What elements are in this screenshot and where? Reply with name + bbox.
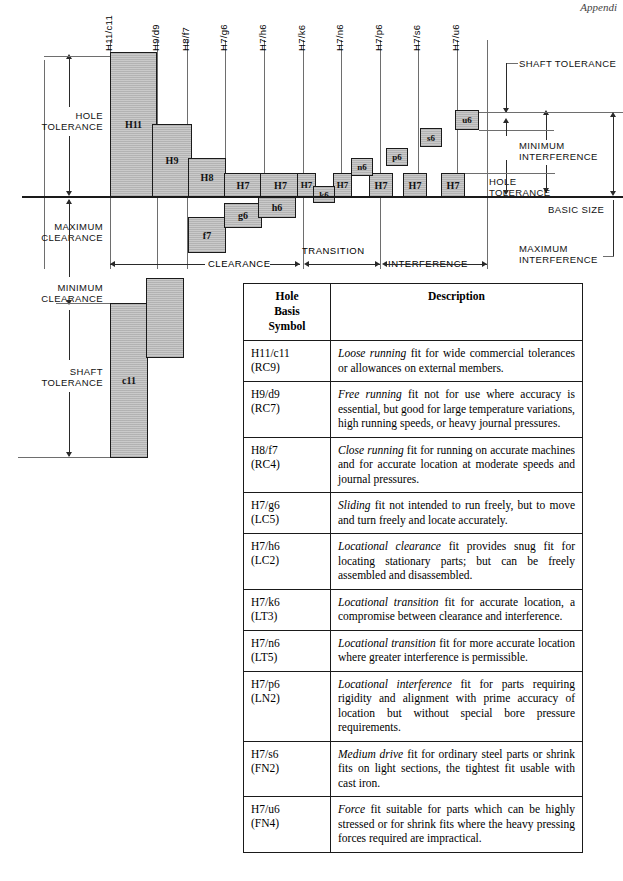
header-cell-symbol: Hole Basis Symbol (244, 284, 331, 341)
dim-stem-min-inter (546, 112, 547, 140)
dim-stem-min-clear-b (69, 310, 70, 360)
top-label-5: H7/k6 (296, 25, 307, 51)
column-guide-lower (303, 197, 304, 269)
hole-bar-h7-g6: H7 (224, 173, 262, 197)
cell-symbol: H7/p6 (LN2) (244, 671, 331, 741)
annotation-basic-size: BASIC SIZE (548, 204, 623, 215)
fit-term: Free running (338, 388, 402, 400)
fit-term: Medium drive (338, 748, 403, 760)
arrow-left-icon (304, 261, 309, 267)
leader-max-inter (603, 256, 614, 257)
annotation-hole-tolerance-right: HOLE TOLERANCE (489, 176, 559, 198)
fit-term: Locational transition (338, 637, 436, 649)
dim-stem-hole-tol-b (69, 136, 70, 193)
column-guide-lower (487, 197, 488, 269)
column-guide-lower (157, 197, 158, 269)
top-label-0: H11/c11 (103, 15, 114, 51)
fit-term: Locational interference (338, 678, 452, 690)
dim-stem-shaft-tol (69, 392, 70, 456)
shaft-bar-h6: h6 (258, 196, 296, 218)
top-label-2: H8/f7 (180, 27, 191, 51)
shaft-bar-d9: d9 (146, 278, 184, 358)
leader-shaft-tol-right-v (506, 63, 507, 113)
zone-dim-interference (384, 264, 487, 265)
arrow-left-icon (382, 261, 387, 267)
cell-description: Close running fit for running on accurat… (331, 437, 583, 493)
hole-bar-h7-p6: H7 (403, 173, 427, 197)
top-label-1: H9/d9 (150, 24, 161, 51)
fit-text: fit not intended to run freely, but to m… (338, 499, 575, 526)
hole-bar-h7-n6: H7 (369, 173, 393, 197)
cell-description: Locational transition fit for more accur… (331, 630, 583, 671)
top-label-8: H7/s6 (411, 25, 422, 51)
table-row: H7/p6 (LN2) Locational interference fit … (244, 671, 583, 741)
annotation-shaft-tolerance-right: SHAFT TOLERANCE (519, 58, 623, 69)
cell-symbol: H9/d9 (RC7) (244, 382, 331, 438)
arrow-down-icon (503, 190, 509, 195)
fit-term: Close running (338, 444, 404, 456)
hole-bar-h11: H11 (110, 52, 157, 197)
arrow-up-icon (66, 199, 72, 204)
ext-line-hole-right (465, 173, 555, 174)
zone-dim-clearance (110, 264, 205, 265)
dim-stem-hole-tol-right-b (506, 160, 507, 193)
cell-symbol: H7/g6 (LC5) (244, 493, 331, 534)
arrow-right-icon (295, 261, 300, 267)
hole-bar-h7-h6: H7 (260, 173, 301, 197)
cell-symbol: H7/u6 (FN4) (244, 797, 331, 853)
fit-text: fit suitable for parts which can be high… (338, 803, 575, 844)
top-label-9: H7/u6 (450, 24, 461, 51)
annotation-hole-tolerance-left: HOLE TOLERANCE (28, 110, 103, 132)
annotation-maximum-interference: MAXIMUM INTERFERENCE (519, 243, 619, 265)
cell-description: Medium drive fit for ordinary steel part… (331, 741, 583, 797)
top-label-6: H7/n6 (334, 24, 345, 51)
annotation-maximum-clearance: MAXIMUM CLEARANCE (0, 221, 103, 243)
leader-shaft-tol-right (506, 63, 518, 64)
cell-description: Force fit suitable for parts which can b… (331, 797, 583, 853)
cell-description: Sliding fit not intended to run freely, … (331, 493, 583, 534)
cell-symbol: H7/h6 (LC2) (244, 534, 331, 590)
shaft-bar-s6: s6 (420, 128, 442, 147)
dim-stem-max-inter-b (613, 200, 614, 256)
table-row: H7/n6 (LT5) Locational transition fit fo… (244, 630, 583, 671)
dim-stem-max-inter (613, 114, 614, 194)
annotation-minimum-interference: MINIMUM INTERFERENCE (519, 140, 619, 162)
hole-bar-h7-k6b: H7 (333, 173, 352, 197)
table-row: H7/u6 (FN4) Force fit suitable for parts… (244, 797, 583, 853)
cell-description: Locational clearance fit provides snug f… (331, 534, 583, 590)
arrow-down-icon (66, 452, 72, 457)
arrow-left-icon (110, 261, 115, 267)
ext-line-u6-top (479, 112, 623, 113)
table-row: H8/f7 (RC4) Close running fit for runnin… (244, 437, 583, 493)
fit-term: Locational clearance (338, 540, 441, 552)
cell-symbol: H7/s6 (FN2) (244, 741, 331, 797)
column-guide-lower (110, 197, 111, 269)
shaft-bar-k6: k6 (313, 186, 335, 203)
cell-symbol: H7/k6 (LT3) (244, 589, 331, 630)
shaft-bar-c11: c11 (110, 303, 148, 458)
top-label-7: H7/p6 (373, 24, 384, 51)
annotation-minimum-clearance: MINIMUM CLEARANCE (22, 282, 103, 304)
ext-line-u6-bot (479, 130, 554, 131)
cell-description: Free running fit not for use where accur… (331, 382, 583, 438)
hole-bar-h8: H8 (188, 158, 226, 197)
fit-term: Loose running (338, 347, 406, 359)
cell-symbol: H7/n6 (LT5) (244, 630, 331, 671)
fit-term: Locational transition (338, 596, 438, 608)
column-guide-lower (380, 197, 381, 269)
cell-description: Loose running fit for wide commercial to… (331, 341, 583, 382)
arrow-right-icon (482, 261, 487, 267)
dim-stem-hole-tol (69, 57, 70, 107)
cell-description: Locational transition fit for accurate l… (331, 589, 583, 630)
shaft-bar-f7: f7 (188, 217, 226, 253)
table-row: H7/h6 (LC2) Locational clearance fit pro… (244, 534, 583, 590)
top-label-4: H7/h6 (257, 24, 268, 51)
table-body: Hole Basis Symbol Description H11/c11 (R… (244, 284, 583, 853)
fit-term: Force (338, 803, 365, 815)
hole-basis-fit-table: Hole Basis Symbol Description H11/c11 (R… (243, 283, 583, 853)
shaft-bar-g6: g6 (224, 203, 262, 228)
table-header-row: Hole Basis Symbol Description (244, 284, 583, 341)
table-row: H7/s6 (FN2) Medium drive fit for ordinar… (244, 741, 583, 797)
hole-bar-h9: H9 (152, 124, 192, 197)
zone-label-clearance: CLEARANCE (208, 258, 271, 269)
